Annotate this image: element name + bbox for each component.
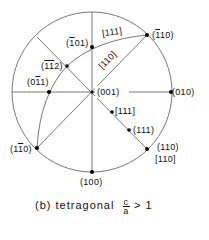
caption-suffix: > 1 (134, 199, 153, 211)
ratio-fraction: c a (123, 198, 131, 215)
label-direction-111: [111] (115, 106, 135, 116)
pole-dot-100 (90, 170, 94, 174)
pole-dot-111 (127, 128, 131, 132)
pole-dot-m101 (90, 45, 94, 49)
label-111: (111) (133, 125, 154, 135)
label-010: (010) (172, 87, 195, 97)
label-110: (110) (157, 142, 179, 152)
label-m101: (101) (66, 38, 89, 48)
pole-dot-1m10 (35, 146, 39, 150)
label-110-direction: [110] (155, 154, 176, 164)
label-1m10: (110) (10, 144, 32, 154)
pole-dot-m1m12 (66, 65, 69, 68)
caption-text: (b) tetragonal (35, 199, 114, 211)
pole-dot-001 (90, 90, 93, 93)
label-001: (001) (97, 87, 120, 97)
pole-dot-0m11 (47, 90, 51, 94)
label-m110: (110) (152, 30, 174, 40)
label-m1m12: (112) (41, 61, 63, 71)
label-0m11: (011) (27, 77, 49, 87)
pole-dot-110 (145, 147, 149, 151)
label-100: (100) (80, 177, 103, 187)
figure-caption: (b) tetragonal c a > 1 (35, 198, 153, 215)
pole-dot-m110 (145, 33, 149, 37)
direction-dot-111 (110, 110, 114, 114)
fraction-denominator: a (123, 207, 131, 215)
